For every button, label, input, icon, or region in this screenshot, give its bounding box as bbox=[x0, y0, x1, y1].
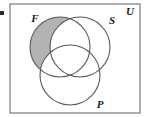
set-label-s: S bbox=[109, 14, 115, 26]
set-label-p: P bbox=[97, 98, 104, 110]
universe-label-u: U bbox=[126, 5, 135, 17]
set-label-f: F bbox=[30, 12, 39, 24]
venn-diagram-figure: F S P U bbox=[0, 0, 145, 117]
venn-diagram-canvas: F S P U bbox=[0, 0, 145, 117]
bullet-mark-icon bbox=[0, 11, 4, 15]
